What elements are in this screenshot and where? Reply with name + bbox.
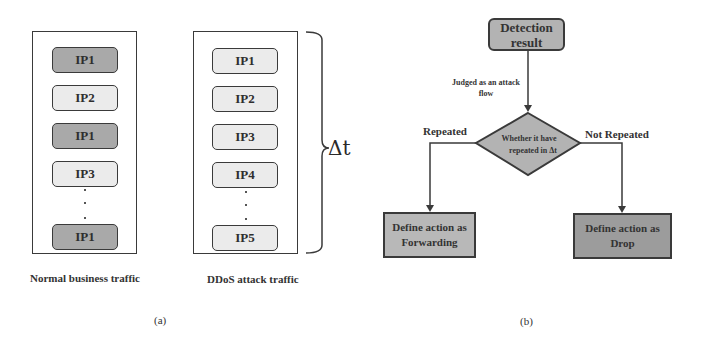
node-line: Define action as bbox=[585, 221, 660, 236]
node-line: Detection bbox=[500, 20, 553, 35]
decision-text: Whether it have repeated in Δt bbox=[486, 133, 572, 157]
detection-result-node: Detection result bbox=[488, 18, 565, 51]
decision-line: repeated in Δt bbox=[486, 145, 572, 157]
arrow-head-icon bbox=[618, 206, 626, 213]
node-line: Define action as bbox=[392, 220, 467, 235]
arrow-head-icon bbox=[524, 105, 532, 112]
forwarding-action-node: Define action as Forwarding bbox=[383, 212, 476, 258]
decision-line: Whether it have bbox=[486, 133, 572, 145]
node-line: Drop bbox=[610, 236, 634, 251]
edge-label-line: Judged as an attack bbox=[440, 77, 532, 88]
node-line: result bbox=[511, 35, 543, 50]
connector-layer bbox=[0, 0, 705, 341]
drop-action-node: Define action as Drop bbox=[573, 213, 672, 259]
panel-b-sublabel: (b) bbox=[520, 315, 533, 327]
arrow-head-icon bbox=[426, 205, 434, 212]
brace-icon bbox=[306, 32, 329, 253]
edge-label-line: flow bbox=[440, 88, 532, 99]
edge-label-attack-flow: Judged as an attack flow bbox=[440, 77, 532, 99]
node-line: Forwarding bbox=[401, 235, 457, 250]
branch-label-not-repeated: Not Repeated bbox=[585, 128, 649, 140]
branch-label-repeated: Repeated bbox=[423, 125, 467, 137]
